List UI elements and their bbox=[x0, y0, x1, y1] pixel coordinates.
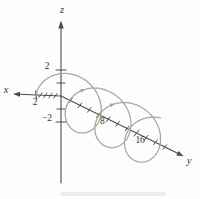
helix-curve bbox=[36, 73, 161, 162]
y-tick-label: 16 bbox=[136, 136, 145, 146]
x-axis-arrowhead bbox=[13, 92, 20, 97]
z-axis-label: z bbox=[60, 5, 64, 16]
y-axis-tick bbox=[106, 117, 110, 122]
helix-figure: z x y 2−22816 bbox=[0, 0, 200, 199]
scan-smudge bbox=[60, 192, 166, 196]
x-axis-label: x bbox=[4, 85, 9, 96]
curve-direction-arrow bbox=[110, 104, 115, 108]
y-axis-arrowhead bbox=[176, 151, 183, 156]
y-axis-label: y bbox=[187, 156, 192, 167]
z-axis-arrowhead bbox=[58, 21, 63, 29]
helix-plot-canvas bbox=[0, 0, 200, 199]
curve-direction-arrow bbox=[80, 89, 85, 93]
z-tick-label: 2 bbox=[45, 62, 49, 72]
x-tick-label: 2 bbox=[33, 98, 37, 108]
y-tick-label: 8 bbox=[100, 117, 104, 127]
z-tick-label: −2 bbox=[42, 114, 52, 124]
